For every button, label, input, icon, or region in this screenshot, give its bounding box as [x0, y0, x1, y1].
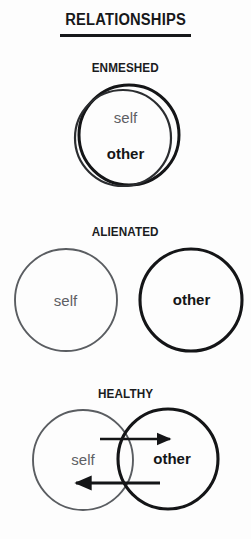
alienated-label-other: other — [139, 292, 244, 307]
healthy-label-other: other — [122, 451, 222, 466]
section-label-alienated-text: ALIENATED — [92, 224, 159, 239]
section-label-healthy: HEALTHY — [0, 386, 251, 401]
healthy-label-self: self — [33, 452, 133, 467]
section-label-alienated: ALIENATED — [0, 224, 251, 239]
section-label-healthy-text: HEALTHY — [98, 386, 153, 401]
enmeshed-label-self: self — [0, 110, 251, 125]
enmeshed-circle-self — [75, 90, 171, 186]
enmeshed-label-other: other — [0, 146, 251, 161]
relationships-diagram: RELATIONSHIPS ENMESHED self other ALIENA… — [0, 0, 251, 539]
alienated-label-self: self — [13, 293, 118, 308]
diagram-enmeshed — [0, 80, 251, 195]
section-label-enmeshed: ENMESHED — [0, 60, 251, 75]
section-label-enmeshed-text: ENMESHED — [92, 60, 159, 75]
page-title-text: RELATIONSHIPS — [65, 11, 186, 29]
title-underline-rule — [60, 34, 191, 37]
page-title: RELATIONSHIPS — [0, 11, 251, 29]
